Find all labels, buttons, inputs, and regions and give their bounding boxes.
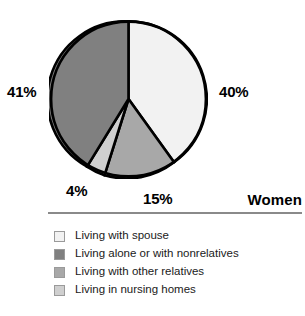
horizontal-divider: [48, 212, 302, 214]
legend-label: Living alone or with nonrelatives: [75, 248, 239, 260]
pie-label-4-percent: 4%: [66, 183, 87, 198]
legend-swatch-icon-living-with-spouse: [54, 231, 65, 242]
pie-label-41-percent: 41%: [7, 84, 36, 99]
legend-label: Living with other relatives: [75, 266, 204, 278]
pie-label-40-percent: 40%: [219, 84, 248, 99]
legend-item-living-with-other-relatives[interactable]: Living with other relatives: [54, 263, 299, 281]
legend-swatch-icon-living-alone-or-with-nonrelatives: [54, 249, 65, 260]
pie-chart-graphic: [49, 19, 208, 179]
pie-chart-figure: 41% 40% 4% 15% Women Living with spouse …: [0, 0, 305, 316]
legend-swatch-icon-living-in-nursing-homes: [54, 285, 65, 296]
chart-legend: Living with spouse Living alone or with …: [54, 227, 299, 299]
legend-label: Living in nursing homes: [75, 284, 196, 296]
legend-label: Living with spouse: [75, 230, 169, 242]
legend-swatch-icon-living-with-other-relatives: [54, 267, 65, 278]
pie-label-15-percent: 15%: [143, 191, 172, 206]
legend-item-living-in-nursing-homes[interactable]: Living in nursing homes: [54, 281, 299, 299]
legend-item-living-with-spouse[interactable]: Living with spouse: [54, 227, 299, 245]
chart-series-title: Women: [248, 192, 302, 207]
legend-item-living-alone-or-with-nonrelatives[interactable]: Living alone or with nonrelatives: [54, 245, 299, 263]
